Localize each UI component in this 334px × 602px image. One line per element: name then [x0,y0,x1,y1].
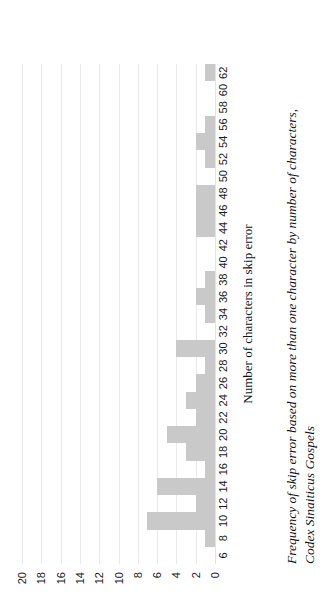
bar [205,64,215,81]
x-tick-label-26: 26 [217,374,237,391]
y-tick-label-18: 18 [35,572,47,584]
x-tick-label-30: 30 [217,340,237,357]
bar-slot-6 [22,547,215,564]
caption-line-1: Frequency of skip error based on more th… [283,24,301,564]
x-tick-label-52: 52 [217,150,237,167]
x-tick-label-32: 32 [217,323,237,340]
bar [147,512,215,529]
caption-line-2: Codex Sinaiticus Gospels [301,24,319,564]
bar [167,426,215,443]
bar-slot-24 [22,392,215,409]
y-tick-label-20: 20 [16,572,28,584]
x-tick-label-20: 20 [217,426,237,443]
bar [196,202,215,219]
bar-slot-34 [22,305,215,322]
bar-slot-32 [22,323,215,340]
bar [196,374,215,391]
bar [196,495,215,512]
x-tick-label-8: 8 [217,530,237,547]
x-tick-label-58: 58 [217,99,237,116]
bar-slot-58 [22,99,215,116]
bar-slot-14 [22,478,215,495]
x-tick-label-62: 62 [217,64,237,81]
bar-slot-42 [22,237,215,254]
bar [205,150,215,167]
x-tick-label-50: 50 [217,168,237,185]
bar-slot-48 [22,185,215,202]
x-tick-label-42: 42 [217,237,237,254]
bar [205,116,215,133]
bar [157,478,215,495]
gridline-0 [215,64,216,564]
x-tick-label-54: 54 [217,133,237,150]
y-tick-label-10: 10 [113,572,125,584]
x-tick-label-16: 16 [217,461,237,478]
x-tick-label-48: 48 [217,185,237,202]
bar-slot-50 [22,168,215,185]
bar [186,443,215,460]
x-tick-label-46: 46 [217,202,237,219]
bar-slot-18 [22,443,215,460]
y-tick-label-16: 16 [55,572,67,584]
bar-slot-8 [22,530,215,547]
bar-slot-52 [22,150,215,167]
bar [196,288,215,305]
x-tick-label-36: 36 [217,288,237,305]
bar [205,461,215,478]
figure-caption: Frequency of skip error based on more th… [283,24,319,564]
bar-slot-20 [22,426,215,443]
bar [176,340,215,357]
x-tick-label-12: 12 [217,495,237,512]
bar-slot-38 [22,271,215,288]
x-tick-label-34: 34 [217,305,237,322]
bar [196,133,215,150]
bar-slot-40 [22,254,215,271]
bar-slot-12 [22,495,215,512]
x-tick-label-14: 14 [217,478,237,495]
y-tick-label-8: 8 [132,572,144,578]
bar-slot-26 [22,374,215,391]
bar [196,185,215,202]
figure-container: 20181614121086420 6810121416182022242628… [0,0,334,602]
x-tick-label-10: 10 [217,512,237,529]
x-tick-label-28: 28 [217,357,237,374]
bar [196,409,215,426]
bar [205,530,215,547]
y-tick-label-0: 0 [209,572,221,578]
bar [186,392,215,409]
bar-slot-10 [22,512,215,529]
plot-area [22,64,215,564]
y-tick-label-2: 2 [190,572,202,578]
bar-slot-62 [22,64,215,81]
bar-slot-30 [22,340,215,357]
bar-slot-60 [22,81,215,98]
x-tick-label-44: 44 [217,219,237,236]
x-tick-label-60: 60 [217,81,237,98]
bar-slot-46 [22,202,215,219]
y-tick-label-14: 14 [74,572,86,584]
bar-slot-16 [22,461,215,478]
y-tick-label-4: 4 [170,572,182,578]
bar [205,305,215,322]
bar-slot-54 [22,133,215,150]
x-tick-label-6: 6 [217,547,237,564]
bar [205,357,215,374]
x-axis-category-ticks: 6810121416182022242628303234363840424446… [217,64,237,564]
bar [196,219,215,236]
x-tick-label-38: 38 [217,271,237,288]
bar-slot-36 [22,288,215,305]
y-tick-label-12: 12 [93,572,105,584]
x-tick-label-18: 18 [217,443,237,460]
x-tick-label-22: 22 [217,409,237,426]
bar-slot-56 [22,116,215,133]
y-tick-label-6: 6 [151,572,163,578]
bar-slot-44 [22,219,215,236]
bar-slot-22 [22,409,215,426]
x-tick-label-40: 40 [217,254,237,271]
bar-series [22,64,215,564]
rotated-figure-wrapper: 20181614121086420 6810121416182022242628… [0,0,334,602]
bar-slot-28 [22,357,215,374]
x-axis-title: Number of characters in skip error [240,64,256,564]
y-axis-value-ticks: 20181614121086420 [22,568,215,602]
x-tick-label-56: 56 [217,116,237,133]
